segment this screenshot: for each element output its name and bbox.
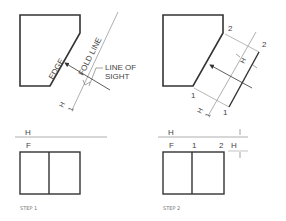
step1-fold-f-label: F [26,141,31,150]
step2-point-1-left: 1 [191,91,196,100]
line-of-sight-leader [89,68,103,86]
step1-front-view [20,152,80,194]
step2-group: H 2 2 1 1 H 1 H F 1 2 H STEP 2 [158,15,267,211]
dim-h-ext2 [253,65,257,68]
projector-2 [225,34,259,52]
step2-front-view [163,152,224,194]
dim-h-ext [236,54,240,57]
step1-caption: STEP 1 [20,205,37,211]
step2-fold-f-label: F [169,141,174,150]
step2-fold-1: 1 [204,112,212,119]
auxiliary-view-diagram: EDGE FOLD LINE LINE OF SIGHT H 1 H F STE… [0,0,286,221]
step2-point-2-top: 2 [228,24,233,33]
step2-front-dim-h: H [231,141,237,150]
line-of-sight-label-1: LINE OF [105,63,136,72]
projector-1 [194,88,229,107]
step2-fold-h: H [196,107,205,115]
step2-point-1-bottom: 1 [223,108,228,117]
step2-fold-h-label: H [168,128,174,137]
step2-point-2-right: 2 [262,40,267,49]
step1-fold-line [72,12,118,110]
step2-dim-h: H [239,57,248,65]
step1-group: EDGE FOLD LINE LINE OF SIGHT H 1 H F STE… [15,12,136,211]
step2-front-point-1: 1 [192,141,197,150]
step2-caption: STEP 2 [163,205,180,211]
edge-label: EDGE [47,57,66,81]
step2-fold-line [208,32,256,116]
step2-front-point-2: 2 [219,141,224,150]
step2-top-view-outline [163,15,223,86]
line-of-sight-label-2: SIGHT [105,72,130,81]
step1-fold-h-label: H [25,128,31,137]
step1-fold-h: H [58,101,67,109]
